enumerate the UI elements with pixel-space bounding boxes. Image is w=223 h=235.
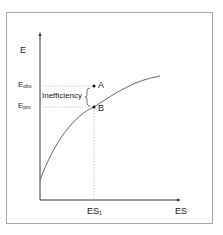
point-a-label: A — [98, 81, 104, 90]
point-a — [93, 85, 96, 88]
point-b-label: B — [98, 104, 104, 113]
point-b — [93, 106, 96, 109]
x-axis-label: ES — [175, 207, 187, 216]
y-axis-label: E — [20, 46, 26, 55]
inefficiency-bracket — [85, 88, 90, 106]
y-axis-arrow-icon — [39, 32, 42, 36]
label-e-pro: Epro — [18, 102, 31, 110]
diagram-canvas — [0, 0, 223, 235]
x-axis-arrow-icon — [177, 199, 181, 202]
x-tick-es1: ES1 — [87, 207, 102, 216]
inefficiency-label: Inefficiency — [42, 92, 82, 100]
label-e-obs: Eobs — [18, 81, 31, 89]
